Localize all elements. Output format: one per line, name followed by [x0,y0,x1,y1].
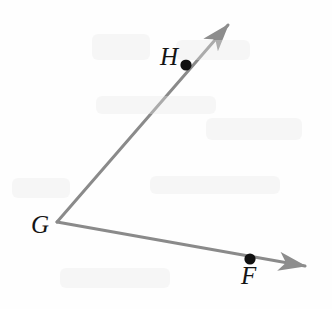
geometry-figure-canvas: G H F [0,0,332,309]
point-label-H: H [160,44,178,69]
point-label-F: F [241,263,256,288]
ray-GF [57,222,305,266]
ray-GH [57,25,228,222]
point-H-dot [180,59,191,70]
vertex-label-G: G [31,212,49,237]
